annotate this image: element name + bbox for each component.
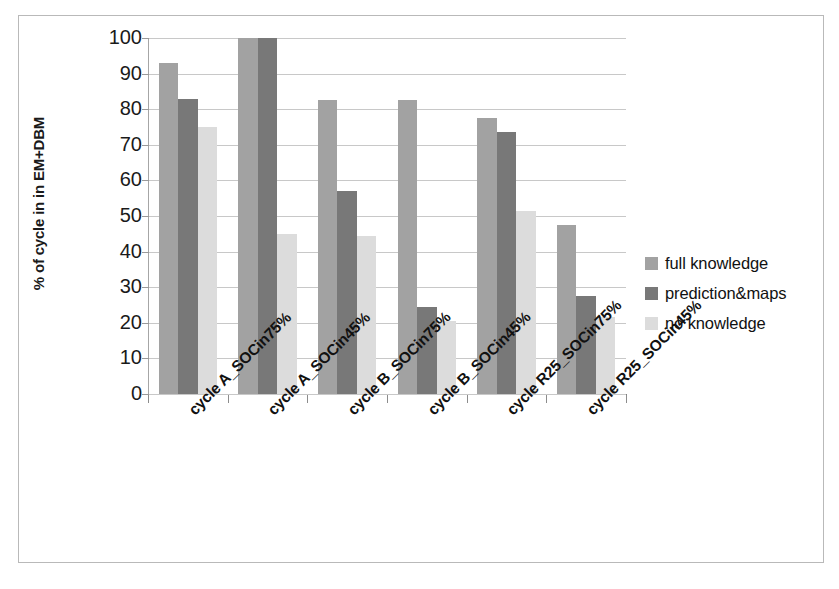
y-tick-mark-90 [142,74,149,75]
gridline-20 [148,323,626,324]
legend-item-1[interactable]: prediction&maps [645,278,825,308]
y-tick-mark-80 [142,109,149,110]
bar-4-2 [516,211,536,394]
y-tick-label-40: 40 [96,241,142,261]
y-tick-mark-20 [142,323,149,324]
x-tick-mark-4 [467,395,468,403]
chart-legend: full knowledgeprediction&mapsno knowledg… [645,248,825,338]
bar-0-0 [159,63,179,394]
legend-label-1: prediction&maps [665,284,786,303]
x-tick-mark-5 [546,395,547,403]
y-tick-mark-100 [142,38,149,39]
legend-label-0: full knowledge [665,254,768,273]
y-axis-title: % of cycle in in EM+DBM [30,104,47,304]
gridline-50 [148,216,626,217]
legend-item-0[interactable]: full knowledge [645,248,825,278]
y-tick-mark-50 [142,216,149,217]
y-tick-label-10: 10 [96,347,142,367]
y-tick-label-50: 50 [96,205,142,225]
x-tick-mark-end [626,395,627,403]
gridline-90 [148,74,626,75]
y-tick-mark-10 [142,358,149,359]
y-tick-mark-60 [142,180,149,181]
x-tick-mark-0 [148,395,149,403]
legend-swatch-icon-1 [645,287,658,300]
legend-label-2: no knowledge [665,314,766,333]
y-tick-label-60: 60 [96,169,142,189]
y-tick-mark-30 [142,287,149,288]
plot-area [148,38,626,394]
bar-0-1 [178,99,198,394]
bar-0-2 [198,127,218,394]
y-tick-label-0: 0 [96,383,142,403]
y-axis-tick-labels: 0102030405060708090100 [90,0,142,589]
y-tick-label-30: 30 [96,276,142,296]
y-tick-label-80: 80 [96,98,142,118]
legend-swatch-icon-0 [645,257,658,270]
gridline-80 [148,109,626,110]
y-tick-label-100: 100 [96,27,142,47]
x-tick-mark-3 [387,395,388,403]
gridline-70 [148,145,626,146]
y-tick-label-90: 90 [96,63,142,83]
legend-swatch-icon-2 [645,317,658,330]
gridline-60 [148,180,626,181]
y-tick-label-20: 20 [96,312,142,332]
x-tick-mark-2 [307,395,308,403]
y-tick-mark-70 [142,145,149,146]
gridline-100 [148,38,626,39]
legend-item-2[interactable]: no knowledge [645,308,825,338]
gridline-30 [148,287,626,288]
bar-2-1 [337,191,357,394]
x-tick-mark-1 [228,395,229,403]
bar-chart: % of cycle in in EM+DBM 0102030405060708… [0,0,839,589]
y-tick-label-70: 70 [96,134,142,154]
gridline-40 [148,252,626,253]
y-tick-mark-40 [142,252,149,253]
